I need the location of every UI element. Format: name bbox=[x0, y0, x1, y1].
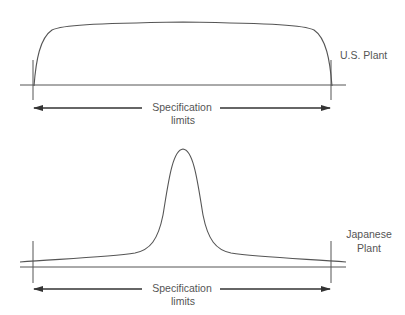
us-plant-label: U.S. Plant bbox=[340, 49, 387, 61]
jp-distribution-curve bbox=[20, 149, 346, 262]
jp-plant-label-line1: Japanese bbox=[346, 228, 392, 240]
jp-spec-label-line1: Specification bbox=[152, 282, 212, 294]
us-plant-diagram bbox=[20, 22, 346, 108]
us-spec-label-line2: limits bbox=[171, 114, 195, 126]
diagram-canvas bbox=[0, 0, 405, 315]
us-spec-label-line1: Specification bbox=[152, 101, 212, 113]
japanese-plant-diagram bbox=[20, 149, 346, 289]
jp-spec-label-line2: limits bbox=[171, 295, 195, 307]
jp-plant-label-line2: Plant bbox=[357, 242, 381, 254]
us-distribution-curve bbox=[34, 22, 332, 86]
